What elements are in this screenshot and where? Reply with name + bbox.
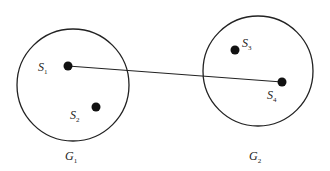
group-circle-g2 <box>203 16 313 126</box>
node-dot-s2 <box>92 103 101 112</box>
diagram-canvas: G1G2S1S2S3S4 <box>0 0 330 171</box>
group-label-g2-subscript: 2 <box>258 157 262 165</box>
nodes-layer <box>64 46 287 112</box>
node-label-s4-subscript: 4 <box>273 96 277 104</box>
edge-s1-s4 <box>68 66 282 82</box>
group-label-g1-letter: G <box>65 149 74 163</box>
labels-layer: G1G2S1S2S3S4 <box>38 36 277 165</box>
group-label-g1: G1 <box>65 149 78 165</box>
node-dot-s3 <box>231 46 240 55</box>
groups-layer <box>17 16 313 141</box>
node-label-s1-subscript: 1 <box>44 68 48 76</box>
group-label-g2: G2 <box>249 149 262 165</box>
group-label-g2-letter: G <box>249 149 258 163</box>
node-dot-s4 <box>278 78 287 87</box>
group-label-g1-subscript: 1 <box>74 157 78 165</box>
node-label-s3: S3 <box>242 36 252 52</box>
node-label-s3-subscript: 3 <box>248 44 252 52</box>
node-label-s1: S1 <box>38 60 48 76</box>
node-dot-s1 <box>64 62 73 71</box>
group-circle-g1 <box>17 29 129 141</box>
edges-layer <box>68 66 282 82</box>
node-label-s4: S4 <box>267 88 277 104</box>
node-label-s2-subscript: 2 <box>76 116 80 124</box>
node-label-s2: S2 <box>70 108 80 124</box>
